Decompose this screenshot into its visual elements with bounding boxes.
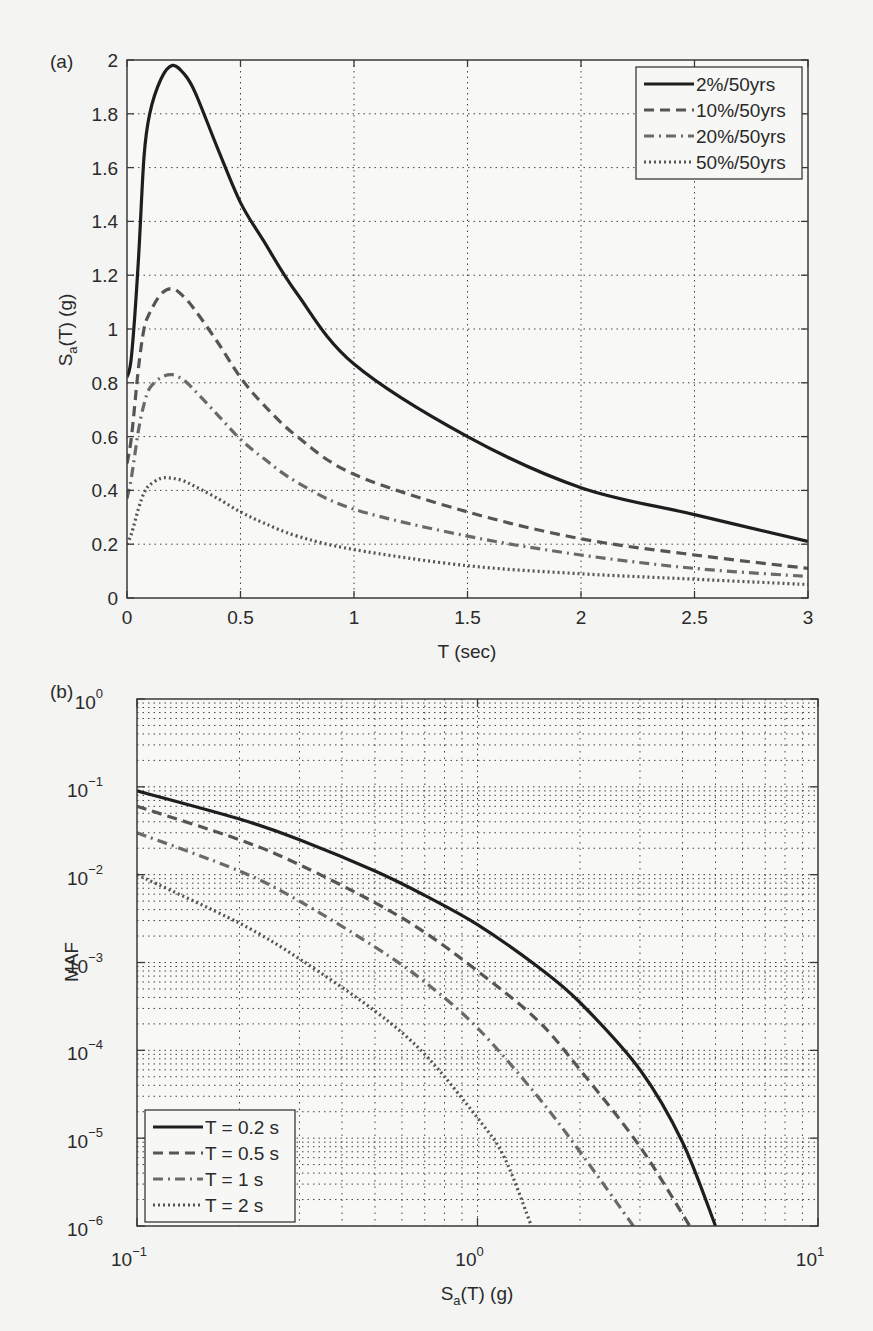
legend-entry-label: 50%/50yrs <box>696 152 786 173</box>
y-tick-label: 10−1 <box>67 774 103 801</box>
chart-b: 10−1100101 10−610−510−410−310−210−1100 (… <box>50 681 824 1308</box>
chart-a-legend: 2%/50yrs10%/50yrs20%/50yrs50%/50yrs <box>636 67 802 179</box>
chart-b-legend: T = 0.2 sT = 0.5 sT = 1 sT = 2 s <box>145 1110 295 1222</box>
x-tick-label: 0 <box>122 607 133 628</box>
legend-entry-label: T = 1 s <box>205 1169 263 1190</box>
y-tick-label: 0.2 <box>92 534 118 555</box>
y-tick-label: 1.6 <box>92 158 118 179</box>
y-tick-label: 1.8 <box>92 104 118 125</box>
y-tick-label: 0.4 <box>92 480 119 501</box>
chart-a-y-axis-label: Sa(T) (g) <box>55 294 80 367</box>
chart-a-x-axis-label: T (sec) <box>438 641 497 662</box>
y-tick-label: 10−5 <box>67 1125 103 1152</box>
chart-b-x-axis-label: Sa(T) (g) <box>441 1283 514 1308</box>
legend-entry-label: 2%/50yrs <box>696 74 775 95</box>
legend-entry-label: T = 0.5 s <box>205 1143 279 1164</box>
x-tick-label: 101 <box>796 1244 824 1270</box>
chart-a-y-tick-labels: 00.20.40.60.811.21.41.61.82 <box>92 50 119 609</box>
y-tick-label: 2 <box>107 50 118 71</box>
y-tick-label: 10−6 <box>67 1213 103 1240</box>
y-tick-label: 0.6 <box>92 427 118 448</box>
y-tick-label: 1.2 <box>92 265 118 286</box>
panel-a-label: (a) <box>50 51 73 72</box>
y-tick-label: 1 <box>107 319 118 340</box>
legend-entry-label: 20%/50yrs <box>696 126 786 147</box>
legend-entry-label: T = 2 s <box>205 1195 263 1216</box>
y-tick-label: 10−2 <box>67 862 103 889</box>
chart-b-x-tick-labels: 10−1100101 <box>111 1244 824 1270</box>
x-tick-label: 10−1 <box>111 1244 147 1270</box>
chart-a-x-tick-labels: 00.511.522.53 <box>122 607 814 628</box>
x-tick-label: 2.5 <box>681 607 707 628</box>
y-tick-label: 100 <box>75 686 103 713</box>
x-tick-label: 1 <box>349 607 360 628</box>
legend-entry-label: 10%/50yrs <box>696 100 786 121</box>
panel-b-label: (b) <box>50 681 73 702</box>
x-tick-label: 3 <box>803 607 814 628</box>
y-tick-label: 1.4 <box>92 211 119 232</box>
x-tick-label: 1.5 <box>454 607 480 628</box>
figure: 00.511.522.53 00.20.40.60.811.21.41.61.8… <box>0 0 873 1331</box>
y-tick-label: 10−4 <box>67 1037 103 1064</box>
chart-a: 00.511.522.53 00.20.40.60.811.21.41.61.8… <box>50 50 813 662</box>
chart-b-y-axis-label: MAF <box>61 942 82 982</box>
x-tick-label: 2 <box>576 607 587 628</box>
x-tick-label: 100 <box>455 1244 483 1270</box>
x-tick-label: 0.5 <box>227 607 253 628</box>
y-tick-label: 0 <box>107 588 118 609</box>
y-tick-label: 0.8 <box>92 373 118 394</box>
legend-entry-label: T = 0.2 s <box>205 1117 279 1138</box>
